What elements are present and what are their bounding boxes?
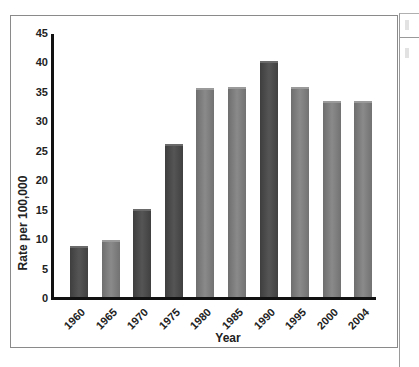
bar-1960: [70, 246, 88, 298]
y-tick-label: 5: [24, 263, 48, 275]
x-tick-label: 1965: [86, 306, 119, 339]
bar-1995: [291, 87, 309, 298]
bar-1990: [260, 61, 278, 298]
bar-1975: [165, 144, 183, 298]
x-tick-label: 1995: [276, 306, 309, 339]
bar-2004: [354, 101, 372, 298]
x-tick-label: 1960: [55, 306, 88, 339]
y-tick-label: 20: [24, 174, 48, 186]
bar-1985: [228, 87, 246, 298]
y-tick-label: 35: [24, 86, 48, 98]
y-axis-line: [51, 34, 54, 300]
bar-1965: [102, 240, 120, 298]
x-axis-line: [51, 297, 376, 300]
y-tick-label: 30: [24, 115, 48, 127]
x-tick-label: 2004: [339, 306, 372, 339]
y-tick-label: 45: [24, 27, 48, 39]
y-tick-label: 25: [24, 145, 48, 157]
x-tick-label: 2000: [308, 306, 341, 339]
y-tick-label: 10: [24, 233, 48, 245]
bar-2000: [323, 101, 341, 298]
x-tick-label: 1970: [118, 306, 151, 339]
y-tick-label: 40: [24, 56, 48, 68]
y-tick-label: 0: [24, 292, 48, 304]
bar-1980: [196, 88, 214, 298]
y-tick-label: 15: [24, 204, 48, 216]
bar-1970: [133, 209, 151, 298]
x-tick-label: 1990: [244, 306, 277, 339]
x-tick-label: 1975: [150, 306, 183, 339]
